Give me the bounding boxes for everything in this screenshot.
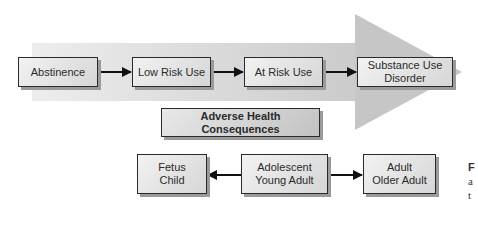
stage-box-low-risk-use: Low Risk Use (132, 57, 211, 87)
lifespan-label: Adolescent Young Adult (255, 161, 313, 187)
consequences-label: Adverse Health Consequences (162, 110, 319, 136)
lifespan-label: Adult Older Adult (372, 161, 426, 187)
stage-box-substance-use-disorder: Substance Use Disorder (357, 57, 453, 87)
lifespan-label: Fetus Child (158, 161, 186, 187)
lifespan-box-adolescent-young-adult: Adolescent Young Adult (241, 154, 328, 194)
stage-label: Substance Use Disorder (368, 59, 443, 85)
lifespan-box-fetus-child: Fetus Child (137, 154, 207, 194)
stage-label: At Risk Use (255, 66, 312, 79)
figure-caption-fragment: F a t (468, 160, 475, 202)
adverse-health-consequences-box: Adverse Health Consequences (161, 108, 320, 137)
stage-label: Abstinence (31, 66, 85, 79)
stage-box-abstinence: Abstinence (18, 57, 98, 87)
stage-label: Low Risk Use (138, 66, 205, 79)
lifespan-box-adult-older-adult: Adult Older Adult (363, 154, 436, 194)
caption-line: t (468, 188, 475, 202)
stage-box-at-risk-use: At Risk Use (244, 57, 323, 87)
caption-line: a (468, 174, 475, 188)
caption-line: F (468, 160, 475, 174)
